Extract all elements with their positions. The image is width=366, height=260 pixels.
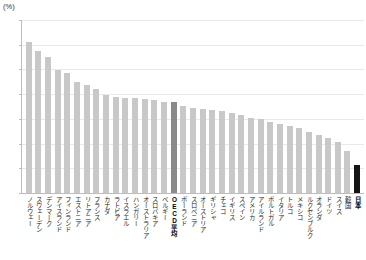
bar-slot	[333, 20, 343, 193]
bar	[335, 142, 341, 193]
category-label-slot: ラトビア	[111, 196, 121, 258]
bar	[161, 102, 167, 193]
category-label: ベルギー	[161, 196, 168, 258]
bar	[84, 85, 90, 193]
bar-slot	[82, 20, 92, 193]
category-label: スロバキア	[151, 196, 158, 258]
category-label: イタリア	[277, 196, 284, 258]
category-label-slot: アメリカ	[246, 196, 256, 258]
bar-slot	[179, 20, 189, 193]
category-label: デンマーク	[45, 196, 52, 258]
category-label-slot: スイス	[333, 196, 343, 258]
bar-slot	[285, 20, 295, 193]
category-label-slot: メキシコ	[294, 196, 304, 258]
bar-slot	[246, 20, 256, 193]
category-label: リトアニア	[83, 196, 90, 258]
category-label-slot: スペイン	[236, 196, 246, 258]
category-label-slot: OECD平均	[169, 196, 179, 258]
category-label: メキシコ	[296, 196, 303, 258]
category-label-slot: ポルトガル	[265, 196, 275, 258]
bar-slot	[140, 20, 150, 193]
category-label: アイスランド	[55, 196, 62, 258]
bar-slot	[111, 20, 121, 193]
category-label-slot: アイルランド	[256, 196, 266, 258]
bar	[93, 89, 99, 193]
category-label: トルコ	[286, 196, 293, 258]
category-label: エストニア	[74, 196, 81, 258]
bar	[142, 99, 148, 193]
category-label-slot: ノルウェー	[24, 196, 34, 258]
bar-chart: (%) 05101520253035 ノルウェースウェーデンデンマークアイスラン…	[0, 0, 366, 260]
bar	[238, 115, 244, 193]
bar	[64, 73, 70, 193]
category-label: ノルウェー	[26, 196, 33, 258]
category-label: ポーランド	[180, 196, 187, 258]
y-axis-unit-label: (%)	[3, 2, 15, 11]
category-label-slot: イタリア	[275, 196, 285, 258]
category-label: アメリカ	[248, 196, 255, 258]
category-label-slot: スウェーデン	[34, 196, 44, 258]
bar	[316, 135, 322, 193]
category-label-slot: アイスランド	[53, 196, 63, 258]
bar	[287, 126, 293, 193]
category-label-slot: オランダ	[314, 196, 324, 258]
category-label-slot: ドイツ	[323, 196, 333, 258]
bar	[103, 95, 109, 193]
y-tick-mark	[19, 193, 22, 194]
bar	[344, 151, 350, 193]
category-label-slot: オーストラリア	[140, 196, 150, 258]
bar	[306, 132, 312, 193]
bar-slot	[207, 20, 217, 193]
bar	[55, 70, 61, 193]
bar-slot	[150, 20, 160, 193]
category-label: 日本	[354, 196, 361, 258]
category-label: 韓国	[344, 196, 351, 258]
bar-slot	[34, 20, 44, 193]
category-label: フィンランド	[64, 196, 71, 258]
category-label: フランス	[93, 196, 100, 258]
bar-slot	[294, 20, 304, 193]
category-label: オランダ	[315, 196, 322, 258]
category-label-slot: デンマーク	[43, 196, 53, 258]
category-label-slot: フランス	[92, 196, 102, 258]
category-label-slot: エストニア	[72, 196, 82, 258]
bar-slot	[63, 20, 73, 193]
bar-slot	[304, 20, 314, 193]
bar	[26, 42, 32, 193]
bar	[248, 118, 254, 193]
bar-slot	[169, 20, 179, 193]
category-label-slot: オーストリア	[198, 196, 208, 258]
bar	[171, 102, 177, 193]
bar	[122, 98, 128, 193]
bar-slot	[352, 20, 362, 193]
category-label-slot: ベルギー	[159, 196, 169, 258]
bar-slot	[188, 20, 198, 193]
bar	[229, 113, 235, 193]
category-label: ハンガリー	[132, 196, 139, 258]
bar	[296, 128, 302, 193]
bars-layer	[22, 20, 364, 193]
category-label: チェコ	[219, 196, 226, 258]
bar	[325, 138, 331, 193]
category-label: ルクセンブルク	[306, 196, 313, 258]
category-label: ギリシャ	[209, 196, 216, 258]
bar-slot	[24, 20, 34, 193]
bar	[45, 57, 51, 193]
bar-slot	[236, 20, 246, 193]
category-label-slot: ルクセンブルク	[304, 196, 314, 258]
category-label: スイス	[335, 196, 342, 258]
category-label-slot: リトアニア	[82, 196, 92, 258]
bar-slot	[101, 20, 111, 193]
bar	[132, 98, 138, 193]
category-label-slot: ハンガリー	[130, 196, 140, 258]
bar-slot	[217, 20, 227, 193]
bar	[277, 124, 283, 193]
bar	[267, 122, 273, 193]
bar	[209, 110, 215, 193]
bar-slot	[275, 20, 285, 193]
category-label-slot: 日本	[352, 196, 362, 258]
bar	[151, 100, 157, 193]
category-label-slot: スロベニア	[188, 196, 198, 258]
category-label: ラトビア	[112, 196, 119, 258]
bar-slot	[159, 20, 169, 193]
